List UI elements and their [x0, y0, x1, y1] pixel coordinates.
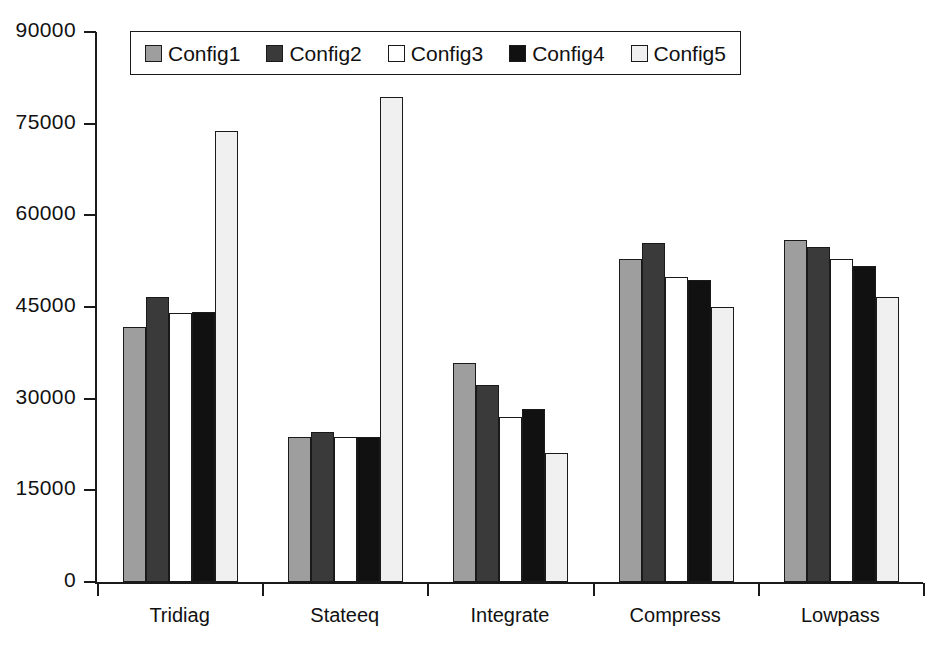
bar-lowpass-config2: [807, 247, 830, 582]
bar-integrate-config3: [499, 417, 522, 582]
bar-integrate-config5: [545, 453, 568, 582]
bar-compress-config5: [711, 307, 734, 582]
y-axis-tick: [84, 123, 96, 125]
x-axis-category-label: Lowpass: [758, 604, 923, 627]
bar-tridiag-config1: [123, 327, 146, 582]
y-axis-tick-label: 15000: [0, 476, 76, 500]
plot-area: [97, 32, 923, 582]
bar-lowpass-config5: [876, 297, 899, 582]
x-axis-category-label: Stateeq: [262, 604, 427, 627]
bar-stateeq-config3: [334, 437, 357, 582]
x-axis-tick: [593, 583, 595, 596]
x-axis-category-label: Tridiag: [97, 604, 262, 627]
bar-tridiag-config3: [169, 313, 192, 582]
x-axis-tick: [758, 583, 760, 596]
bar-lowpass-config1: [784, 240, 807, 582]
bar-stateeq-config1: [288, 437, 311, 582]
bar-integrate-config1: [453, 363, 476, 582]
y-axis-tick: [84, 398, 96, 400]
bar-compress-config3: [665, 277, 688, 582]
bar-tridiag-config2: [146, 297, 169, 582]
y-axis-tick: [84, 214, 96, 216]
bar-stateeq-config5: [380, 97, 403, 582]
y-axis-tick-label: 30000: [0, 385, 76, 409]
x-axis-category-label: Integrate: [427, 604, 592, 627]
y-axis-tick-label: 90000: [0, 18, 76, 42]
x-axis-tick: [262, 583, 264, 596]
y-axis-tick: [84, 489, 96, 491]
bar-integrate-config4: [522, 409, 545, 582]
y-axis-tick-label: 60000: [0, 201, 76, 225]
bar-chart: Config1Config2Config3Config4Config5 0150…: [0, 0, 933, 658]
x-axis-category-label: Compress: [593, 604, 758, 627]
y-axis-tick: [84, 306, 96, 308]
bar-integrate-config2: [476, 385, 499, 582]
y-axis-tick-label: 0: [0, 568, 76, 592]
bar-lowpass-config3: [830, 259, 853, 582]
bar-compress-config2: [642, 243, 665, 582]
x-axis-tick: [923, 583, 925, 596]
y-axis-tick-label: 75000: [0, 110, 76, 134]
bar-compress-config1: [619, 259, 642, 582]
bar-stateeq-config2: [311, 432, 334, 582]
x-axis-line: [95, 582, 923, 584]
y-axis-tick: [84, 31, 96, 33]
bar-compress-config4: [688, 280, 711, 582]
bar-lowpass-config4: [853, 266, 876, 582]
x-axis-tick: [427, 583, 429, 596]
bar-tridiag-config4: [192, 312, 215, 582]
bar-stateeq-config4: [357, 437, 380, 582]
bar-tridiag-config5: [215, 131, 238, 582]
y-axis-tick-label: 45000: [0, 293, 76, 317]
x-axis-tick: [97, 583, 99, 596]
